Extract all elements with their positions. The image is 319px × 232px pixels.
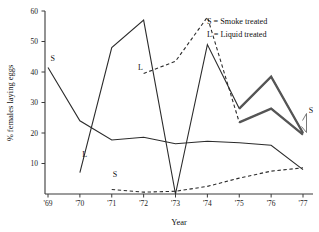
series-tag-l-mid: L [138,63,143,72]
x-tick-label: '70 [75,199,84,208]
legend-entry-s: S = Smoke treated [207,17,267,26]
line-chart: 102030405060 '69'70'71'72'73'74'75'76'77… [0,0,319,232]
y-tick-label: 50 [31,37,39,46]
series-tag-l-left: L [82,150,87,159]
x-tick-label: '76 [267,199,276,208]
x-tick-label: '72 [139,199,148,208]
series-tag-s-upper: S [51,54,55,63]
series-tag-s-right: S [309,106,313,115]
x-tick-label: '73 [171,199,180,208]
y-tick-label: 60 [31,7,39,16]
x-tick-label: '74 [203,199,212,208]
chart-figure: 102030405060 '69'70'71'72'73'74'75'76'77… [0,0,319,232]
legend-entry-l: L = Liquid treated [207,30,267,39]
y-tick-label: 20 [31,129,39,138]
x-tick-label: '77 [299,199,308,208]
x-tick-label: '69 [44,199,53,208]
y-axis-title: % females laying eggs [5,65,15,142]
x-tick-label: '71 [107,199,116,208]
y-tick-label: 10 [31,159,39,168]
series-tag-s-lower: S [113,170,117,179]
x-axis-title: Year [171,217,187,227]
y-tick-label: 30 [31,98,39,107]
y-tick-label: 40 [31,68,39,77]
x-tick-label: '75 [235,199,244,208]
